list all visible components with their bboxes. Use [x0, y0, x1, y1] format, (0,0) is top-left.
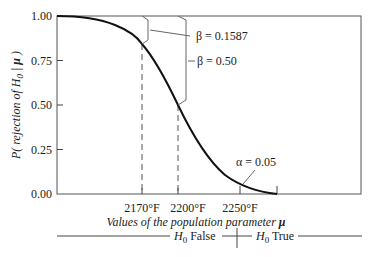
y-axis-label: P( rejection of H0 | μ ): [9, 51, 25, 160]
x-tick-labels: 2170°F 2200°F 2250°F: [124, 201, 258, 215]
reference-lines: [142, 44, 178, 194]
alpha-leader: [243, 170, 255, 184]
beta-050-label: β = 0.50: [197, 54, 237, 68]
x-tick-label: 2170°F: [124, 201, 160, 215]
power-curve-chart: 1.00 0.75 0.50 0.25 0.00 P( rejection of…: [0, 0, 378, 257]
y-axis: [57, 16, 63, 150]
y-tick-label: 0.00: [31, 187, 52, 201]
y-tick-label: 0.25: [31, 143, 52, 157]
h0-false-label: H0 False: [173, 229, 216, 245]
beta-1587-bracket: [142, 16, 190, 44]
y-tick-label: 0.50: [31, 98, 52, 112]
y-tick-label: 0.75: [31, 54, 52, 68]
beta-1587-label: β = 0.1587: [196, 29, 248, 43]
x-tick-label: 2200°F: [170, 201, 206, 215]
beta-050-bracket: [178, 16, 195, 105]
x-tick-label: 2250°F: [222, 201, 258, 215]
x-axis-label: Values of the population parameter μ: [106, 215, 285, 229]
y-tick-label: 1.00: [31, 9, 52, 23]
alpha-label: α = 0.05: [236, 155, 276, 169]
h0-true-label: H0 True: [255, 229, 294, 245]
y-tick-labels: 1.00 0.75 0.50 0.25 0.00: [31, 9, 52, 201]
